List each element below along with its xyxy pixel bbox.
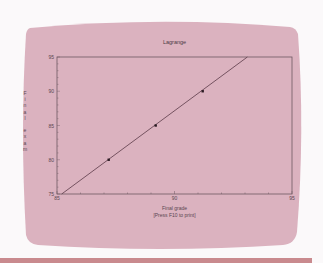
y-tick-label: 75	[48, 191, 54, 197]
crt-screen: 8590957580859095LagrangeFinal examFinal …	[0, 0, 323, 263]
y-axis-label-char: n	[24, 102, 27, 108]
y-axis-label-char: F	[23, 90, 26, 96]
y-tick-label: 85	[48, 123, 54, 129]
x-tick-label: 95	[289, 195, 295, 201]
x-axis-label: Final grade	[162, 205, 187, 211]
data-point	[202, 90, 204, 92]
data-point	[155, 124, 157, 126]
y-axis-label-char: l	[24, 115, 25, 121]
x-tick-label: 85	[54, 195, 60, 201]
y-axis-label-char: a	[24, 109, 27, 115]
y-axis-label-char: i	[24, 96, 25, 102]
print-hint: [Press F10 to print]	[153, 212, 196, 218]
x-tick-label: 90	[172, 195, 178, 201]
y-tick-label: 90	[48, 88, 54, 94]
data-point	[108, 159, 110, 161]
y-tick-label: 80	[48, 157, 54, 163]
y-axis-label-char: m	[23, 146, 27, 152]
chart-title: Lagrange	[163, 39, 186, 45]
bottom-strip	[0, 258, 312, 263]
y-axis-label-char: e	[24, 127, 27, 133]
y-axis-label-char: a	[24, 140, 27, 146]
y-tick-label: 95	[48, 54, 54, 60]
